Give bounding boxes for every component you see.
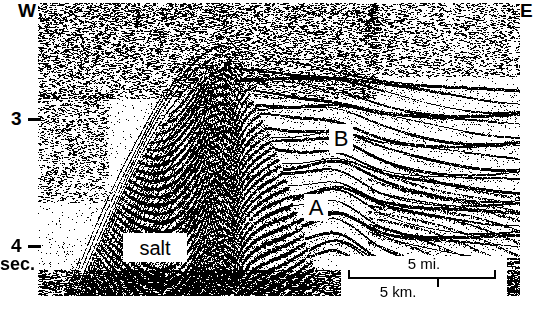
scale-bar-tick-right (494, 270, 496, 279)
scale-bar-miles-label: 5 mi. (341, 256, 507, 271)
scale-bar: 5 mi. 5 km. (341, 256, 507, 298)
annotation-horizon-a: A (304, 194, 328, 221)
orientation-label-west: W (18, 1, 36, 20)
depth-tick-label-4: 4 (11, 236, 22, 255)
scale-bar-kilometers-label: 5 km. (343, 284, 453, 299)
annotation-horizon-b: B (329, 124, 353, 153)
scale-bar-line (348, 277, 496, 279)
orientation-label-east: E (520, 1, 533, 20)
seismic-data-canvas (38, 3, 520, 296)
depth-axis-unit-label: sec. (0, 255, 35, 273)
seismic-section-panel (38, 3, 520, 296)
depth-tick-label-3: 3 (11, 109, 22, 128)
seismic-figure: W E 3 4 sec. B A salt 5 mi. 5 km. (0, 0, 536, 309)
scale-bar-tick-left (348, 270, 350, 279)
depth-tick-mark-4 (28, 245, 41, 248)
depth-tick-mark-3 (28, 118, 41, 121)
annotation-salt-body: salt (123, 233, 187, 262)
